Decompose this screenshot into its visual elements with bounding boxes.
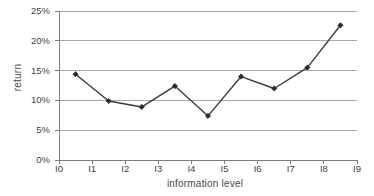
x-axis-tick-label: I2 [115, 163, 135, 174]
x-axis-tick-label: I9 [347, 163, 367, 174]
line-chart: return 0%5%10%15%20%25% I0I1I2I3I4I5I6I7… [0, 0, 374, 196]
x-axis-tick-label: I1 [82, 163, 102, 174]
x-axis-title: information level [55, 178, 355, 189]
x-axis-tick-label: I5 [215, 163, 235, 174]
x-axis-tick-label: I8 [314, 163, 334, 174]
x-axis-tick-labels: I0I1I2I3I4I5I6I7I8I9 [0, 0, 374, 196]
x-axis-tick-label: I4 [181, 163, 201, 174]
x-axis-tick-label: I6 [248, 163, 268, 174]
x-axis-tick-label: I7 [281, 163, 301, 174]
x-axis-tick-label: I3 [148, 163, 168, 174]
x-axis-tick-label: I0 [49, 163, 69, 174]
